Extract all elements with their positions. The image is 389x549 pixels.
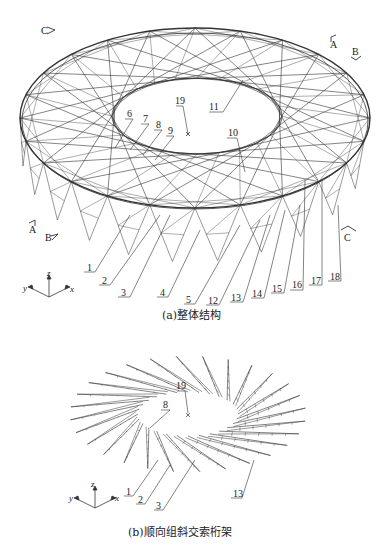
- label-18: 18: [330, 272, 340, 282]
- label-11: 11: [209, 102, 219, 112]
- label-5: 5: [186, 295, 191, 305]
- section-mark-b-right: B: [352, 47, 359, 57]
- label-b-3: 3: [156, 501, 161, 511]
- axis-y-label-b: y: [69, 493, 73, 503]
- section-mark-a-right: A: [330, 40, 337, 50]
- axis-x-label-a: x: [70, 284, 74, 294]
- caption-a: (a)整体结构: [162, 310, 221, 322]
- label-8: 8: [156, 120, 161, 130]
- label-10: 10: [228, 128, 238, 138]
- label-b-1: 1: [126, 487, 131, 497]
- label-13: 13: [231, 293, 241, 303]
- section-mark-b-left: B: [45, 233, 52, 243]
- section-mark-c-right: C: [344, 233, 351, 243]
- label-3: 3: [121, 288, 126, 298]
- overall-structure-drawing: [20, 27, 370, 262]
- coordinate-axes: [28, 275, 116, 508]
- label-b-19: 19: [176, 381, 186, 391]
- axis-z-label-b: z: [91, 479, 95, 489]
- cable-truss-drawing: [71, 356, 306, 471]
- label-19: 19: [175, 96, 185, 106]
- caption-b: (b)顺向组斜交索桁架: [128, 527, 232, 539]
- label-12: 12: [208, 296, 218, 306]
- section-mark-c-top: C: [41, 26, 48, 36]
- label-16: 16: [292, 280, 302, 290]
- label-6: 6: [127, 109, 132, 119]
- axis-x-label-b: x: [115, 493, 119, 503]
- label-14: 14: [252, 289, 262, 299]
- label-9: 9: [168, 126, 173, 136]
- label-b-13: 13: [233, 489, 243, 499]
- label-4: 4: [160, 288, 165, 298]
- label-17: 17: [311, 276, 321, 286]
- label-b-8: 8: [163, 400, 168, 410]
- label-b-2: 2: [138, 495, 143, 505]
- axis-z-label-a: z: [47, 268, 51, 278]
- axis-y-label-a: y: [23, 283, 27, 293]
- label-15: 15: [272, 284, 282, 294]
- label-1: 1: [87, 263, 92, 273]
- label-7: 7: [143, 114, 148, 124]
- label-2: 2: [102, 276, 107, 286]
- section-mark-a-left: A: [29, 225, 36, 235]
